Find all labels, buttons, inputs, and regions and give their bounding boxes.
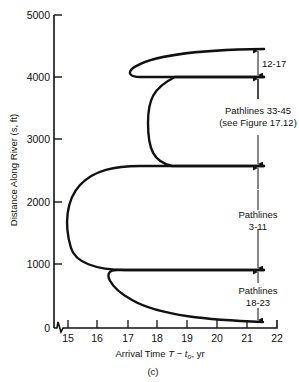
y-axis: 5000 4000 3000 2000 1000 0 Distance Alon… [8, 9, 62, 334]
x-tick-16: 16 [91, 332, 103, 344]
x-tick-20: 20 [211, 332, 223, 344]
label-12-17: 12-17 [262, 58, 286, 69]
y-axis-title: Distance Along River (s, ft) [8, 114, 19, 226]
label-see-figure: (see Figure 17.12) [219, 117, 297, 128]
label-pathlines-18-23: Pathlines [238, 285, 277, 296]
x-axis-title: Arrival Time T − to, yr [115, 348, 204, 360]
x-tick-22: 22 [271, 332, 283, 344]
label-3-11: 3-11 [249, 221, 267, 232]
arrival-time-chart: 5000 4000 3000 2000 1000 0 Distance Alon… [0, 0, 299, 382]
x-tick-15: 15 [62, 332, 74, 344]
y-tick-0: 0 [44, 322, 50, 334]
x-axis: 15 16 17 18 19 20 21 22 Arrival Time T −… [54, 320, 283, 377]
x-tick-17: 17 [122, 332, 134, 344]
x-tick-21: 21 [241, 332, 253, 344]
label-18-23: 18-23 [246, 297, 270, 308]
x-tick-19: 19 [181, 332, 193, 344]
arrival-curve [67, 49, 264, 322]
label-pathlines-33-45: Pathlines 33-45 [225, 105, 291, 116]
y-tick-1000: 1000 [27, 258, 51, 270]
y-tick-2000: 2000 [27, 196, 51, 208]
y-tick-5000: 5000 [27, 9, 51, 21]
y-tick-3000: 3000 [27, 133, 51, 145]
label-pathlines-3-11: Pathlines [238, 209, 277, 220]
panel-label: (c) [147, 366, 158, 377]
x-tick-18: 18 [151, 332, 163, 344]
y-tick-4000: 4000 [27, 71, 51, 83]
